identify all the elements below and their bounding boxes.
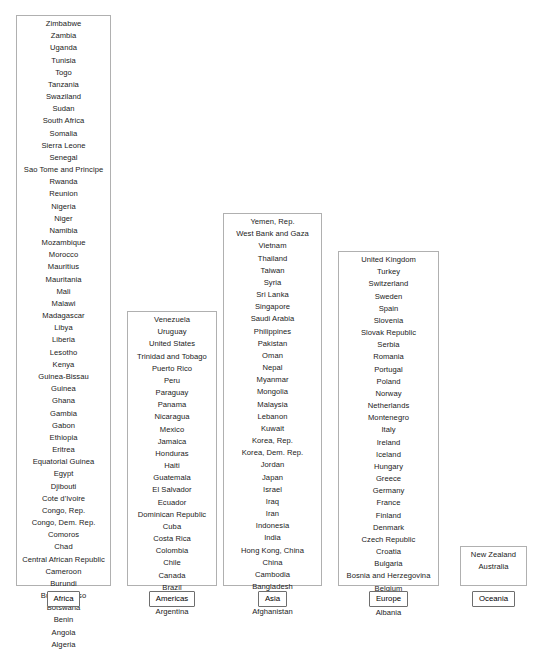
country-item: Libya — [18, 322, 109, 334]
country-item: Guatemala — [129, 472, 215, 484]
region-group-europe: United KingdomTurkeySwitzerlandSwedenSpa… — [338, 0, 439, 607]
country-item: Cameroon — [18, 566, 109, 578]
country-item: Germany — [340, 485, 437, 497]
country-item: Slovak Republic — [340, 327, 437, 339]
country-item: Finland — [340, 510, 437, 522]
country-item: Romania — [340, 351, 437, 363]
country-item: Honduras — [129, 448, 215, 460]
country-item: Serbia — [340, 339, 437, 351]
country-item: Argentina — [129, 606, 215, 618]
region-label-wrap-europe: Europe — [338, 591, 439, 607]
country-item: France — [340, 497, 437, 509]
country-item: Nepal — [225, 362, 320, 374]
region-label-wrap-africa: Africa — [16, 591, 111, 607]
region-label-wrap-asia: Asia — [223, 591, 322, 607]
country-item: Cambodia — [225, 569, 320, 581]
country-item: Afghanistan — [225, 606, 320, 618]
country-item: Yemen, Rep. — [225, 216, 320, 228]
country-item: Czech Republic — [340, 534, 437, 546]
country-item: Panama — [129, 399, 215, 411]
country-item: Togo — [18, 67, 109, 79]
country-item: Mozambique — [18, 237, 109, 249]
country-item: Paraguay — [129, 387, 215, 399]
country-item: Zambia — [18, 30, 109, 42]
country-item: Poland — [340, 376, 437, 388]
country-item: Japan — [225, 472, 320, 484]
region-label-africa[interactable]: Africa — [47, 591, 81, 607]
country-item: Spain — [340, 303, 437, 315]
country-item: Italy — [340, 424, 437, 436]
country-item: Singapore — [225, 301, 320, 313]
country-item: Korea, Rep. — [225, 435, 320, 447]
region-label-asia[interactable]: Asia — [258, 591, 287, 607]
country-item: Mauritania — [18, 274, 109, 286]
country-item: Lesotho — [18, 347, 109, 359]
country-item: Central African Republic — [18, 554, 109, 566]
country-item: Guinea-Bissau — [18, 371, 109, 383]
country-item: Ecuador — [129, 497, 215, 509]
region-group-oceania: New ZealandAustralia Oceania — [460, 0, 527, 607]
country-item: Somalia — [18, 128, 109, 140]
country-item: Jamaica — [129, 436, 215, 448]
region-label-wrap-oceania: Oceania — [460, 591, 527, 607]
region-label-europe[interactable]: Europe — [369, 591, 408, 607]
country-item: Niger — [18, 213, 109, 225]
country-item: Egypt — [18, 468, 109, 480]
region-label-americas[interactable]: Americas — [149, 591, 196, 607]
country-item: Switzerland — [340, 278, 437, 290]
country-item: Algeria — [18, 639, 109, 651]
country-item: Slovenia — [340, 315, 437, 327]
country-item: Bosnia and Herzegovina — [340, 570, 437, 582]
country-item: Croatia — [340, 546, 437, 558]
country-item: Sierra Leone — [18, 140, 109, 152]
country-item: Myanmar — [225, 374, 320, 386]
country-item: Cote d'Ivoire — [18, 493, 109, 505]
country-item: Taiwan — [225, 265, 320, 277]
country-item: Kenya — [18, 359, 109, 371]
country-item: Australia — [462, 561, 525, 573]
country-item: Thailand — [225, 253, 320, 265]
country-item: Indonesia — [225, 520, 320, 532]
country-item: Philippines — [225, 326, 320, 338]
country-item: Syria — [225, 277, 320, 289]
country-item: New Zealand — [462, 549, 525, 561]
country-item: Iceland — [340, 449, 437, 461]
country-item: Hong Kong, China — [225, 545, 320, 557]
country-item: Albania — [340, 607, 437, 619]
country-item: Zimbabwe — [18, 18, 109, 30]
country-item: Netherlands — [340, 400, 437, 412]
country-item: Mongolia — [225, 386, 320, 398]
country-item: Cuba — [129, 521, 215, 533]
country-item: India — [225, 532, 320, 544]
country-item: Eritrea — [18, 444, 109, 456]
country-item: Bulgaria — [340, 558, 437, 570]
country-item: Iran — [225, 508, 320, 520]
country-list-americas: VenezuelaUruguayUnited StatesTrinidad an… — [127, 311, 217, 586]
country-item: China — [225, 557, 320, 569]
country-item: Haiti — [129, 460, 215, 472]
region-label-oceania[interactable]: Oceania — [472, 591, 515, 607]
region-label-wrap-americas: Americas — [127, 591, 217, 607]
country-item: Dominican Republic — [129, 509, 215, 521]
country-item: Lebanon — [225, 411, 320, 423]
country-item: Mauritius — [18, 261, 109, 273]
region-group-africa: ZimbabweZambiaUgandaTunisiaTogoTanzaniaS… — [16, 0, 111, 607]
country-item: Malaysia — [225, 399, 320, 411]
country-item: Jordan — [225, 459, 320, 471]
country-item: Colombia — [129, 545, 215, 557]
country-item: Reunion — [18, 188, 109, 200]
country-item: Peru — [129, 375, 215, 387]
country-item: Canada — [129, 570, 215, 582]
country-item: Madagascar — [18, 310, 109, 322]
country-item: Puerto Rico — [129, 363, 215, 375]
country-item: Mexico — [129, 424, 215, 436]
country-item: Ireland — [340, 437, 437, 449]
country-item: Morocco — [18, 249, 109, 261]
country-item: Swaziland — [18, 91, 109, 103]
region-group-asia: Yemen, Rep.West Bank and GazaVietnamThai… — [223, 0, 322, 607]
country-item: Equatorial Guinea — [18, 456, 109, 468]
country-item: Israel — [225, 484, 320, 496]
country-item: Gambia — [18, 408, 109, 420]
country-item: Hungary — [340, 461, 437, 473]
